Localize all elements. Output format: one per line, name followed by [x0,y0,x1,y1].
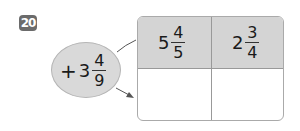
input-2-whole: 2 [232,32,243,53]
input-cell-1: 5 4 5 [158,24,185,61]
operator-expression: + 3 4 9 [60,52,106,89]
output-cell-2[interactable] [212,70,282,119]
input-1-whole: 5 [158,32,169,53]
input-1-denominator: 5 [173,44,183,61]
arrow-head-icon [126,92,134,98]
operator-fraction: 4 9 [92,52,106,89]
input-2-denominator: 4 [247,44,257,61]
input-1-fraction: 4 5 [171,24,185,61]
operator-whole: 3 [79,60,90,81]
operator-numerator: 4 [94,52,104,69]
operator-denominator: 9 [94,72,104,89]
output-cell-1[interactable] [139,70,210,119]
input-2-fraction: 3 4 [245,24,259,61]
plus-sign: + [60,59,77,83]
input-cell-2: 2 3 4 [232,24,259,61]
input-2-numerator: 3 [247,24,257,41]
input-1-numerator: 4 [173,24,183,41]
